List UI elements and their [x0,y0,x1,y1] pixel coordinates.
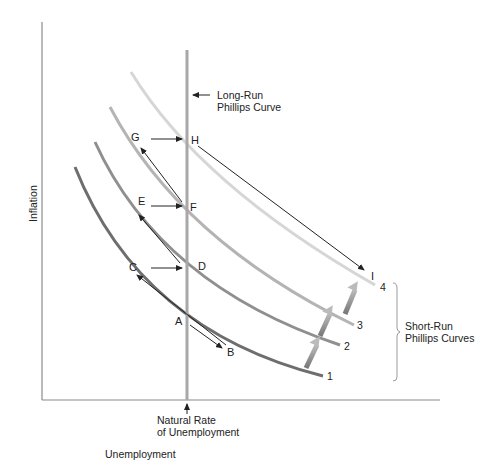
arrow-b-to-c [137,275,226,345]
curve-label-4: 4 [380,281,386,293]
point-label-c: C [129,261,137,273]
arrow-d-to-e [139,215,180,263]
point-label-e: E [138,195,145,207]
short-run-curves-label: Short-Run Phillips Curves [405,320,474,344]
curve-label-3: 3 [357,319,363,331]
arrow-f-to-g [141,148,182,202]
point-label-b: B [227,346,234,358]
curve-label-1: 1 [327,370,333,382]
arrow-h-to-i [198,146,364,270]
point-label-i: I [371,270,374,282]
curve-label-2: 2 [344,340,350,352]
point-label-g: G [131,131,140,143]
point-label-d: D [198,260,206,272]
natural-rate-label: Natural Rate of Unemployment [157,414,239,438]
y-axis-label: Inflation [27,185,39,222]
short-run-curves-label-line1: Short-Run [405,320,474,332]
short-run-curves-label-line2: Phillips Curves [405,332,474,344]
natural-rate-label-line2: of Unemployment [157,426,239,438]
point-label-h: H [191,134,199,146]
shift-arrow-3-to-4 [345,278,361,314]
point-label-f: F [190,201,197,213]
short-run-curves-brace [393,283,400,381]
long-run-curve-label: Long-Run Phillips Curve [217,89,281,113]
point-label-a: A [175,315,183,327]
phillips-curve-diagram: G H E F C D A B I 1 2 3 4 Inflation [0,0,501,469]
long-run-curve-label-line2: Phillips Curve [217,101,281,113]
natural-rate-label-line1: Natural Rate [157,414,239,426]
long-run-curve-label-line1: Long-Run [217,89,281,101]
x-axis-label: Unemployment [105,448,176,460]
short-run-curve-3 [110,107,354,325]
